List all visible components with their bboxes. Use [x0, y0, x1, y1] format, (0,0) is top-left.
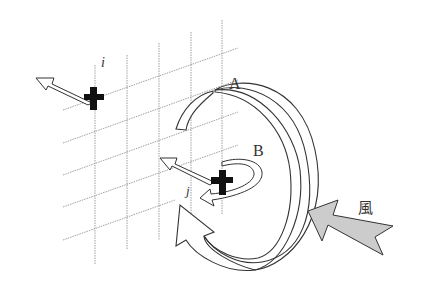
wind-label: 風: [358, 196, 373, 217]
grid-oblique-line: [63, 112, 238, 175]
wind-arrow: [308, 200, 393, 255]
hollow-arrow-icon: [36, 78, 92, 105]
point-i-label: i: [101, 55, 105, 71]
vortex-a-label: A: [229, 75, 241, 93]
grid: [63, 20, 238, 265]
grid-oblique-line: [63, 80, 238, 143]
point-j-label: j: [186, 183, 190, 199]
wind-arrow-icon: [308, 200, 393, 255]
cross-marker-icon: [84, 87, 104, 110]
grid-oblique-line: [63, 200, 175, 240]
vortex-diagram: [0, 0, 423, 281]
vortex-b-label: B: [253, 142, 264, 160]
grid-oblique-line: [63, 48, 238, 110]
point-i: [36, 78, 104, 110]
hollow-arrow-icon: [160, 158, 214, 185]
